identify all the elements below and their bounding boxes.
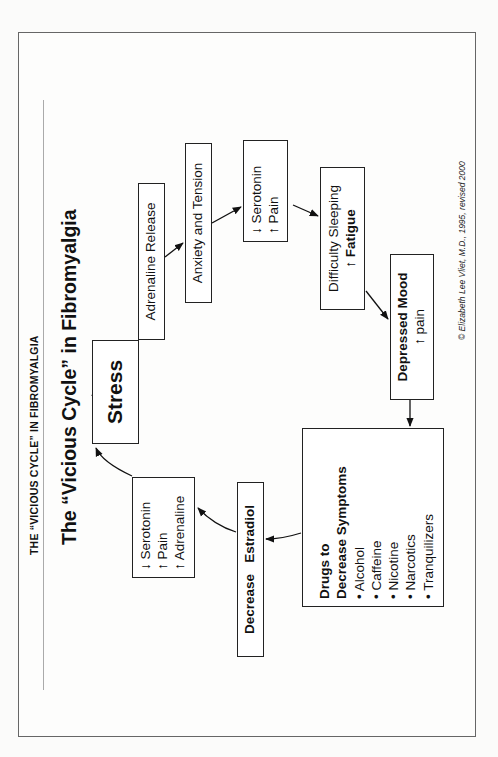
arrow-left-to-stress (96, 448, 132, 476)
arrow-adrenaline-to-anxiety (165, 243, 183, 257)
rotated-page: THE “VICIOUS CYCLE” IN FIBROMYALGIA The … (0, 0, 498, 757)
drugs-title-1: Drugs to (316, 544, 333, 600)
node-fatigue-line: ↑ Fatigue (343, 209, 360, 268)
node-sleeping-line: Difficulty Sleeping (326, 185, 343, 292)
node-depressed-mood-title: Depressed Mood (395, 273, 412, 382)
drugs-item: • Alcohol (351, 547, 368, 599)
node-depressed-mood: Depressed Mood ↑ pain (390, 254, 434, 400)
drugs-item: • Tranquilizers (420, 514, 437, 599)
node-serotonin-pain-adrenaline: ↓ Serotonin ↑ Pain ↑ Adrenaline (132, 477, 195, 578)
drugs-item: • Caffeine (368, 540, 385, 599)
node-anxiety-tension: Anxiety and Tension (185, 143, 212, 303)
node-difficulty-sleeping: Difficulty Sleeping ↑ Fatigue (320, 167, 365, 310)
arrow-sleep-to-mood (366, 291, 388, 319)
arrow-serotonin-to-sleep (293, 205, 318, 216)
node-pain-line: ↑ Pain (266, 196, 283, 234)
node-adrenaline-release: Adrenaline Release (138, 183, 165, 340)
drugs-title-2: Decrease Symptoms (333, 466, 350, 599)
arrow-estradiol-to-left (198, 508, 236, 532)
arrow-drugs-to-estradiol (266, 533, 301, 539)
node-anxiety-label: Anxiety and Tension (190, 163, 207, 284)
node-adrenaline-line: ↑ Adrenaline (172, 496, 189, 570)
drugs-item: • Nicotine (385, 542, 402, 599)
node-depressed-mood-pain: ↑ pain (412, 309, 429, 345)
arrow-anxiety-to-serotonin (212, 207, 241, 223)
node-serotonin-line: ↓ Serotonin (138, 502, 155, 570)
node-decrease-estradiol: Decrease Estradiol (237, 482, 264, 657)
node-pain-line: ↑ Pain (155, 532, 172, 570)
node-stress: Stress (92, 340, 139, 444)
node-drugs: Drugs to Decrease Symptoms • Alcohol • C… (302, 428, 444, 607)
up-arrow-icon: ↑ (343, 261, 358, 268)
fatigue-label: Fatigue (343, 209, 358, 257)
node-decrease-estradiol-label: Decrease Estradiol (242, 505, 259, 634)
node-serotonin-pain: ↓ Serotonin ↑ Pain (243, 140, 288, 242)
copyright-notice: © Elizabeth Lee Vliet, M.D., 1995, revis… (457, 161, 467, 340)
drugs-item: • Narcotics (402, 534, 419, 599)
node-stress-label: Stress (102, 360, 128, 424)
node-adrenaline-release-label: Adrenaline Release (143, 203, 160, 321)
node-serotonin-line: ↓ Serotonin (249, 166, 266, 234)
